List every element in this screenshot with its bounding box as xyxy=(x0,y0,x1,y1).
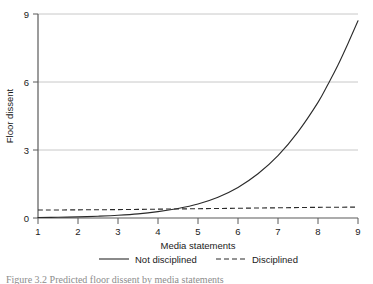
y-tick-label-3: 3 xyxy=(24,145,29,156)
figure-caption-text: Figure 3.2 Predicted floor dissent by me… xyxy=(6,275,371,284)
x-tick-label-1: 1 xyxy=(35,226,40,237)
x-tick-label-6: 6 xyxy=(235,226,240,237)
y-axis-title: Floor dissent xyxy=(4,88,15,143)
legend-label-not-disciplined: Not disciplined xyxy=(135,254,197,265)
figure-caption-clipped: Figure 3.2 Predicted floor dissent by me… xyxy=(6,275,371,284)
gridlines xyxy=(38,14,358,150)
x-tick-label-2: 2 xyxy=(75,226,80,237)
y-tick-label-6: 6 xyxy=(24,77,29,88)
y-tick-label-9: 9 xyxy=(24,9,29,20)
x-axis-ticks xyxy=(38,218,358,224)
figure-container: 9 6 3 0 1 2 3 4 5 6 7 8 9 Floor dissent … xyxy=(0,0,373,284)
x-tick-label-7: 7 xyxy=(275,226,280,237)
line-chart: 9 6 3 0 1 2 3 4 5 6 7 8 9 Floor dissent … xyxy=(0,0,373,284)
x-tick-label-9: 9 xyxy=(355,226,360,237)
y-axis-ticks xyxy=(33,14,38,218)
series-line-not-disciplined xyxy=(38,21,358,218)
series-lines xyxy=(38,21,358,218)
x-tick-label-5: 5 xyxy=(195,226,200,237)
y-tick-label-0: 0 xyxy=(24,213,29,224)
x-axis-title: Media statements xyxy=(161,240,236,251)
x-tick-label-4: 4 xyxy=(155,226,160,237)
series-line-disciplined xyxy=(38,207,358,210)
legend-label-disciplined: Disciplined xyxy=(252,254,298,265)
x-tick-label-8: 8 xyxy=(315,226,320,237)
chart-legend: Not disciplined Disciplined xyxy=(99,254,298,265)
x-tick-label-3: 3 xyxy=(115,226,120,237)
